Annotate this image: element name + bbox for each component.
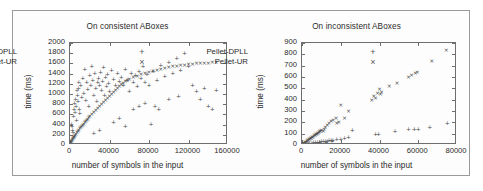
y-tick-mark: [223, 74, 226, 75]
y-tick-mark: [302, 122, 305, 123]
plus-marker-icon: +: [135, 47, 149, 57]
y-tick-label: 2000: [48, 38, 65, 46]
x-tick-mark: [70, 43, 71, 46]
y-tick-mark: [452, 111, 455, 112]
data-point: +: [111, 119, 116, 125]
y-tick-mark: [70, 84, 73, 85]
data-point: +: [78, 82, 83, 88]
y-axis-label: time (ms): [256, 62, 265, 122]
y-tick-label: 1400: [48, 69, 65, 77]
y-tick-mark: [70, 63, 73, 64]
data-point: +: [392, 128, 397, 134]
figure-container: On consistent ABoxes 0200400600800100012…: [12, 10, 470, 176]
y-tick-mark: [452, 100, 455, 101]
y-tick-mark: [302, 77, 305, 78]
data-point: +: [346, 134, 351, 140]
data-point: +: [74, 117, 79, 123]
x-tick-mark: [110, 140, 111, 143]
y-tick-label: 800: [52, 99, 65, 107]
y-tick-label: 200: [52, 130, 65, 138]
data-point: ×: [429, 58, 434, 64]
data-point: ×: [387, 83, 392, 89]
y-tick-mark: [452, 54, 455, 55]
y-tick-mark: [302, 134, 305, 135]
data-point: +: [148, 121, 153, 127]
x-tick-label: 20000: [329, 147, 350, 155]
y-tick-mark: [223, 84, 226, 85]
y-tick-mark: [452, 88, 455, 89]
y-tick-mark: [223, 43, 226, 44]
data-point: +: [127, 88, 132, 94]
x-tick-mark: [110, 43, 111, 46]
y-tick-mark: [302, 66, 305, 67]
y-tick-label: 300: [284, 106, 297, 114]
data-point: +: [109, 67, 114, 73]
data-point: +: [152, 103, 157, 109]
y-axis-ticks: 0100200300400500600700800900: [245, 42, 297, 144]
y-tick-mark: [452, 77, 455, 78]
y-axis-label: time (ms): [24, 62, 33, 122]
chart-panel-inconsistent: On inconsistent ABoxes 01002003004005006…: [242, 11, 471, 177]
y-tick-label: 1200: [48, 79, 65, 87]
x-tick-label: 0: [67, 147, 71, 155]
x-axis-label: number of symbols in the input: [13, 161, 242, 170]
data-point: +: [416, 126, 421, 132]
data-point: +: [406, 126, 411, 132]
x-axis-ticks: 020000400006000080000: [301, 147, 456, 159]
y-tick-mark: [452, 134, 455, 135]
y-tick-mark: [223, 114, 226, 115]
y-tick-mark: [452, 122, 455, 123]
data-point: +: [202, 85, 207, 91]
data-point: ×: [415, 69, 420, 75]
chart-title: On consistent ABoxes: [13, 22, 242, 31]
data-point: +: [210, 106, 215, 112]
legend-label: Pellet-UR: [0, 57, 17, 67]
y-tick-mark: [302, 54, 305, 55]
y-tick-label: 600: [52, 110, 65, 118]
data-point: +: [166, 96, 171, 102]
x-tick-label: 40000: [98, 147, 119, 155]
y-tick-label: 200: [284, 118, 297, 126]
y-tick-mark: [302, 88, 305, 89]
y-tick-mark: [302, 111, 305, 112]
x-tick-label: 80000: [445, 147, 466, 155]
y-tick-label: 900: [284, 38, 297, 46]
legend-label: Pellet-DPLL: [0, 47, 17, 57]
y-tick-mark: [223, 94, 226, 95]
x-tick-label: 120000: [175, 147, 200, 155]
y-tick-label: 1600: [48, 59, 65, 67]
data-point: +: [170, 70, 175, 76]
plus-marker-icon: +: [366, 47, 380, 57]
x-tick-mark: [189, 43, 190, 46]
legend-label: Pellet-UR: [215, 57, 248, 67]
data-point: +: [131, 106, 136, 112]
data-point: ×: [394, 80, 399, 86]
y-tick-mark: [452, 66, 455, 67]
data-point: +: [324, 139, 329, 144]
y-tick-label: 0: [61, 140, 65, 148]
x-tick-label: 80000: [137, 147, 158, 155]
y-tick-mark: [223, 135, 226, 136]
chart-title: On inconsistent ABoxes: [242, 22, 471, 31]
cross-marker-icon: ×: [135, 57, 149, 67]
y-tick-label: 600: [284, 72, 297, 80]
data-point: +: [146, 82, 151, 88]
y-tick-mark: [223, 104, 226, 105]
data-point: ×: [342, 115, 347, 121]
data-point: +: [135, 83, 140, 89]
x-tick-label: 40000: [368, 147, 389, 155]
data-point: +: [176, 93, 181, 99]
legend-label: Pellet-DPLL: [206, 47, 248, 57]
x-tick-label: 160000: [214, 147, 239, 155]
data-point: +: [137, 103, 142, 109]
y-tick-label: 0: [293, 140, 297, 148]
x-tick-mark: [418, 140, 419, 143]
data-point: +: [162, 73, 167, 79]
x-tick-mark: [418, 43, 419, 46]
y-tick-label: 500: [284, 84, 297, 92]
data-point: +: [214, 87, 219, 93]
y-tick-label: 1800: [48, 48, 65, 56]
cross-marker-icon: ×: [366, 57, 380, 67]
x-tick-mark: [380, 140, 381, 143]
x-tick-mark: [380, 43, 381, 46]
